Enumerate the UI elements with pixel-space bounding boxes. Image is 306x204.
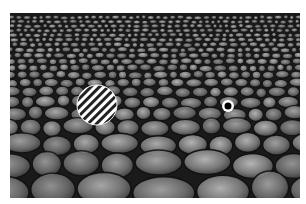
cobblestone xyxy=(267,65,275,72)
cobblestone xyxy=(54,53,65,58)
cobblestone xyxy=(36,58,47,64)
cobblestone xyxy=(117,78,130,86)
cobblestone xyxy=(84,28,90,32)
cobblestone xyxy=(177,15,184,19)
cobblestone xyxy=(271,47,278,52)
cobblestone xyxy=(88,42,96,47)
cobblestone xyxy=(39,19,45,23)
cobblestone xyxy=(289,78,300,86)
cobblestone xyxy=(16,24,22,28)
cobblestone xyxy=(92,33,98,37)
cobblestone xyxy=(219,24,223,28)
cobblestone xyxy=(133,25,140,29)
cobblestone xyxy=(133,20,140,24)
cobblestone xyxy=(203,16,209,20)
cobblestone xyxy=(78,52,85,57)
cobblestone xyxy=(46,20,52,24)
cobblestone xyxy=(90,37,95,41)
cobblestone xyxy=(25,33,32,37)
cobblestone xyxy=(55,47,60,52)
cobblestone xyxy=(71,42,79,47)
cobblestone xyxy=(30,28,36,32)
cobblestone xyxy=(232,16,237,20)
cobblestone xyxy=(153,107,172,120)
cobblestone xyxy=(202,42,208,47)
cobblestone xyxy=(296,42,300,47)
cobblestone xyxy=(285,29,290,33)
cobblestone xyxy=(290,16,294,20)
cobblestone xyxy=(211,53,218,58)
cobblestone xyxy=(117,53,127,58)
cobblestone xyxy=(171,53,177,58)
cobblestone xyxy=(288,20,294,24)
cobblestone xyxy=(54,42,60,47)
cobblestone xyxy=(36,48,46,53)
cobblestone xyxy=(219,53,225,58)
cobblestone xyxy=(268,87,286,97)
cobblestone xyxy=(171,78,184,86)
cobblestone xyxy=(70,64,80,71)
cobblestone xyxy=(165,42,174,47)
cobblestone xyxy=(246,59,256,65)
cobblestone xyxy=(119,24,126,28)
cobblestone xyxy=(209,33,214,37)
cobblestone xyxy=(234,132,261,152)
cobblestone xyxy=(54,20,62,24)
cobblestone xyxy=(91,28,98,32)
cobblestone xyxy=(168,38,173,42)
cobblestone xyxy=(274,20,278,24)
cobblestone xyxy=(220,78,233,86)
cobblestone xyxy=(263,24,268,28)
cobblestone xyxy=(79,20,84,24)
cobblestone xyxy=(118,28,124,32)
cobblestone xyxy=(39,64,47,71)
cobblestone xyxy=(98,15,103,19)
cobblestone xyxy=(284,15,289,19)
cobblestone xyxy=(140,88,155,98)
cobblestone xyxy=(122,87,138,97)
cobblestone xyxy=(204,37,211,41)
cobblestone xyxy=(159,47,169,52)
cobblestone xyxy=(174,24,181,28)
cobblestone xyxy=(80,42,86,47)
cobblestone xyxy=(193,71,203,78)
cobblestone xyxy=(204,59,211,65)
cobblestone xyxy=(232,29,239,33)
cobblestone xyxy=(159,20,167,24)
cobblestone xyxy=(96,38,102,42)
cobblestone xyxy=(135,150,182,175)
cobblestone xyxy=(108,20,115,24)
cobblestone xyxy=(140,37,149,41)
cobblestone xyxy=(100,29,105,33)
cobblestone xyxy=(204,78,219,86)
cobblestone xyxy=(57,95,70,106)
cobblestone xyxy=(154,71,168,78)
cobblestone xyxy=(142,28,149,32)
cobblestone xyxy=(228,38,236,42)
cobblestone xyxy=(74,33,80,37)
cobblestone xyxy=(45,15,52,19)
cobblestone xyxy=(185,38,193,42)
cobblestone xyxy=(248,108,263,121)
cobblestone xyxy=(112,58,119,64)
cobblestone xyxy=(32,20,38,24)
cobblestone xyxy=(262,52,271,57)
cobblestone xyxy=(213,24,217,28)
cobblestone xyxy=(292,58,300,64)
cobblestone xyxy=(204,96,218,107)
cobblestone xyxy=(10,29,14,33)
cobblestone xyxy=(228,65,238,72)
cobblestone xyxy=(276,29,283,33)
striped-disk xyxy=(77,85,117,125)
cobblestone xyxy=(91,65,104,72)
cobblestone xyxy=(150,20,157,24)
cobblestone xyxy=(294,64,300,71)
cobblestone xyxy=(140,64,152,71)
cobblestone xyxy=(175,20,181,24)
cobblestone xyxy=(170,15,176,19)
cobblestone xyxy=(277,64,284,71)
cobblestone xyxy=(150,53,160,58)
cobblestone xyxy=(256,88,267,98)
cobblestone xyxy=(15,47,25,52)
cobblestone xyxy=(223,87,239,97)
